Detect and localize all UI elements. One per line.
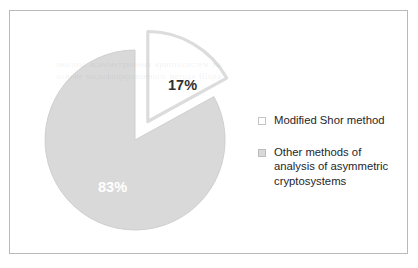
legend-item-modified-shor[interactable]: Modified Shor method: [258, 113, 418, 128]
legend-item-other-methods[interactable]: Other methods ofanalysis of asymmetriccr…: [258, 145, 418, 189]
legend-swatch-icon-modified-shor: [258, 117, 266, 125]
slice-label-modified-shor: 17%: [168, 77, 197, 93]
legend-label-other-methods: Other methods ofanalysis of asymmetriccr…: [274, 145, 388, 189]
legend-label-other-methods-line1: Other methods of: [274, 146, 361, 158]
legend-swatch-icon-other-methods: [258, 149, 266, 157]
slice-label-other-methods: 83%: [98, 179, 127, 195]
chart-frame: анализа асимметричных криптосистем на ос…: [9, 10, 408, 254]
legend-label-modified-shor: Modified Shor method: [274, 113, 385, 128]
chart-legend: Modified Shor method Other methods ofana…: [258, 113, 418, 205]
legend-label-other-methods-line2: analysis of asymmetric: [274, 160, 388, 172]
plot-area: анализа асимметричных криптосистем на ос…: [10, 11, 258, 255]
pie-chart-figure: анализа асимметричных криптосистем на ос…: [0, 0, 418, 268]
legend-label-other-methods-line3: cryptosystems: [274, 175, 346, 187]
pie-svg: [10, 11, 258, 255]
